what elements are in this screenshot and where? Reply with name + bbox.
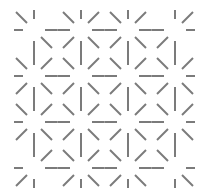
spoke-ne (41, 150, 52, 161)
star-node (152, 10, 196, 53)
spoke-ne (182, 12, 193, 23)
spoke-se (41, 129, 52, 140)
spoke-nw (157, 150, 168, 161)
spoke-sw (63, 175, 74, 186)
star-node (152, 53, 196, 99)
star-grid-pattern (0, 0, 207, 196)
spoke-ne (88, 150, 99, 161)
spoke-ne (135, 12, 146, 23)
spoke-nw (16, 12, 27, 23)
spoke-se (135, 83, 146, 94)
spoke-nw (63, 58, 74, 69)
star-node (14, 145, 58, 188)
spoke-se (88, 83, 99, 94)
spoke-ne (88, 58, 99, 69)
star-node (105, 53, 152, 99)
star-node (58, 53, 105, 99)
spoke-ne (41, 58, 52, 69)
spoke-sw (157, 83, 168, 94)
spoke-se (41, 37, 52, 48)
star-node (152, 145, 196, 188)
spoke-ne (182, 58, 193, 69)
spoke-sw (110, 129, 121, 140)
spoke-sw (63, 37, 74, 48)
spoke-se (182, 129, 193, 140)
spoke-nw (16, 104, 27, 115)
spoke-ne (135, 104, 146, 115)
spoke-ne (88, 104, 99, 115)
pattern-canvas (0, 0, 207, 196)
spoke-sw (110, 175, 121, 186)
spoke-se (135, 175, 146, 186)
spoke-sw (16, 83, 27, 94)
star-node (105, 10, 152, 53)
star-node (14, 99, 58, 145)
spoke-nw (110, 12, 121, 23)
spoke-nw (157, 58, 168, 69)
spoke-nw (110, 150, 121, 161)
spoke-ne (88, 12, 99, 23)
star-node (105, 145, 152, 188)
star-node (152, 99, 196, 145)
spoke-se (182, 83, 193, 94)
spoke-nw (63, 150, 74, 161)
spoke-sw (63, 83, 74, 94)
spoke-nw (157, 104, 168, 115)
spoke-sw (157, 129, 168, 140)
spoke-nw (63, 104, 74, 115)
spoke-se (135, 129, 146, 140)
spoke-se (41, 83, 52, 94)
spoke-nw (16, 58, 27, 69)
spoke-se (88, 129, 99, 140)
spoke-se (88, 37, 99, 48)
spoke-sw (110, 83, 121, 94)
star-node (14, 53, 58, 99)
spoke-nw (110, 58, 121, 69)
spoke-ne (41, 104, 52, 115)
spoke-se (135, 37, 146, 48)
spoke-sw (157, 37, 168, 48)
spoke-sw (16, 175, 27, 186)
spoke-ne (182, 104, 193, 115)
star-node (58, 10, 105, 53)
spoke-sw (63, 129, 74, 140)
spoke-se (88, 175, 99, 186)
star-node (58, 145, 105, 188)
spoke-se (182, 175, 193, 186)
spoke-nw (63, 12, 74, 23)
star-node (14, 10, 58, 53)
spoke-ne (135, 150, 146, 161)
star-node (105, 99, 152, 145)
spoke-ne (135, 58, 146, 69)
spoke-sw (110, 37, 121, 48)
spoke-sw (16, 129, 27, 140)
star-node (58, 99, 105, 145)
spoke-nw (110, 104, 121, 115)
